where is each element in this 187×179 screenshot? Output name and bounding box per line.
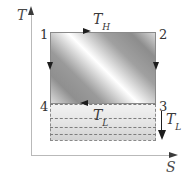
dashed-isotherm-line bbox=[50, 134, 156, 135]
low-temperature-indicator-line bbox=[161, 111, 162, 132]
state-point-4-label: 4 bbox=[40, 100, 48, 113]
state-point-1-label: 1 bbox=[40, 28, 48, 41]
temperature-axis-label: T bbox=[17, 8, 26, 22]
dashed-isotherm-line bbox=[50, 104, 156, 105]
low-temperature-outer-symbol: T bbox=[166, 111, 175, 127]
high-temperature-symbol: T bbox=[93, 11, 102, 27]
process-4-1-arrow-icon bbox=[47, 62, 53, 70]
axis-arrow-right-icon bbox=[169, 152, 178, 158]
axis-arrow-up-icon bbox=[28, 6, 34, 15]
high-temperature-subscript: H bbox=[102, 22, 110, 32]
low-temperature-indicator-arrow-icon bbox=[158, 130, 166, 140]
low-temperature-inner-symbol: T bbox=[93, 107, 102, 123]
low-temperature-inner-label: TL bbox=[93, 108, 108, 126]
cycle-work-area bbox=[50, 32, 156, 104]
ts-diagram-figure: T S 1 2 3 4 TH TL TL bbox=[0, 0, 187, 179]
process-1-2-arrow-icon bbox=[83, 28, 91, 34]
state-point-2-label: 2 bbox=[159, 28, 167, 41]
process-2-3-arrow-icon bbox=[153, 62, 159, 70]
entropy-axis-label: S bbox=[166, 160, 176, 174]
temperature-axis-line bbox=[31, 14, 32, 156]
entropy-axis-line bbox=[31, 155, 172, 156]
high-temperature-label: TH bbox=[93, 12, 110, 30]
low-temperature-outer-subscript: L bbox=[175, 122, 181, 132]
low-temperature-inner-subscript: L bbox=[102, 118, 108, 128]
low-temperature-outer-label: TL bbox=[166, 112, 181, 130]
process-3-4-arrow-icon bbox=[80, 100, 88, 106]
